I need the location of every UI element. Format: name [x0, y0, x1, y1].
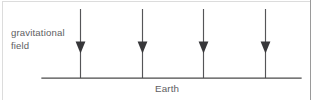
gravitational-field-label-line1: gravitational — [11, 27, 65, 38]
diagram-canvas: gravitational field Earth — [0, 0, 320, 100]
field-arrow — [138, 9, 148, 78]
field-arrow — [76, 9, 86, 78]
field-arrow — [199, 9, 209, 78]
earth-label: Earth — [155, 83, 179, 94]
field-arrow-group — [76, 9, 271, 78]
field-arrow — [261, 9, 271, 78]
gravitational-field-label-line2: field — [11, 40, 29, 51]
gravitational-field-diagram: gravitational field Earth — [0, 0, 320, 100]
